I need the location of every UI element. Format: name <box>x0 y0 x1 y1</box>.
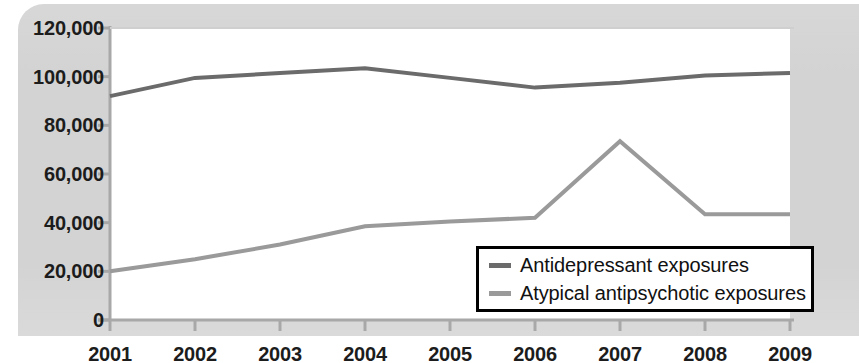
legend-label-atypical-antipsychotic: Atypical antipsychotic exposures <box>520 283 806 303</box>
x-axis-tick-label: 2008 <box>683 344 727 363</box>
x-axis-tick-label: 2005 <box>428 344 472 363</box>
y-axis-tick-labels: 020,00040,00060,00080,000100,000120,000 <box>0 0 104 363</box>
x-axis-tick-label: 2002 <box>173 344 217 363</box>
y-axis-tick-label: 100,000 <box>4 67 104 87</box>
legend-item-atypical-antipsychotic: Atypical antipsychotic exposures <box>489 281 803 305</box>
y-axis-tick-label: 120,000 <box>4 18 104 38</box>
x-axis-tick-labels: 200120022003200420052006200720082009 <box>0 332 859 363</box>
y-axis-tick-label: 40,000 <box>4 213 104 233</box>
x-axis-tick-label: 2001 <box>88 344 132 363</box>
x-axis-tick-label: 2003 <box>258 344 302 363</box>
x-axis-tick-label: 2006 <box>513 344 557 363</box>
x-axis-tick-label: 2009 <box>768 344 812 363</box>
series-line-antidepressant <box>110 68 790 96</box>
y-axis-tick-label: 0 <box>4 310 104 330</box>
y-axis-tick-label: 60,000 <box>4 164 104 184</box>
legend-label-antidepressant: Antidepressant exposures <box>520 255 749 275</box>
y-axis-tick-label: 20,000 <box>4 261 104 281</box>
data-series-lines <box>110 68 790 271</box>
line-chart-figure: 020,00040,00060,00080,000100,000120,000 … <box>0 0 859 363</box>
legend-item-antidepressant: Antidepressant exposures <box>489 253 803 277</box>
x-axis-tick-label: 2004 <box>343 344 387 363</box>
y-axis-tick-label: 80,000 <box>4 115 104 135</box>
legend-swatch-antidepressant <box>489 263 511 268</box>
legend-swatch-atypical-antipsychotic <box>489 291 511 296</box>
chart-legend: Antidepressant exposures Atypical antips… <box>476 246 814 312</box>
x-axis-tick-label: 2007 <box>598 344 642 363</box>
